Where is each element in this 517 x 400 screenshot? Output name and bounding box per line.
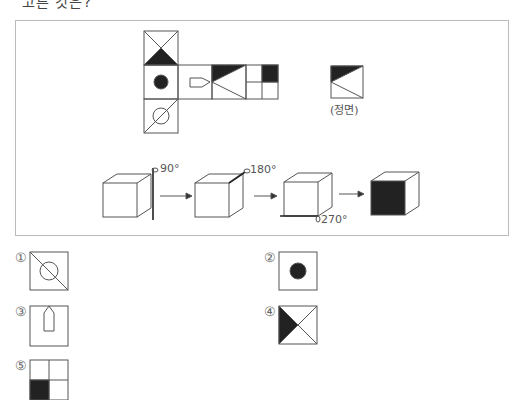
- option-5-figure: [30, 360, 68, 400]
- cube-2: [195, 169, 250, 217]
- option-4-figure: [279, 306, 317, 344]
- cube-4-result: [371, 172, 419, 215]
- net-face-grid: [246, 65, 278, 99]
- option-2-number[interactable]: ②: [264, 250, 276, 265]
- front-view-label: (정면): [330, 101, 359, 117]
- rotation-label-270: 270°: [321, 213, 348, 226]
- cube-1: [103, 168, 158, 220]
- option-4-number[interactable]: ④: [264, 304, 276, 319]
- option-2-figure: [279, 252, 317, 290]
- net-face-dot: [144, 65, 178, 99]
- net-face-triangle: [212, 65, 246, 99]
- rotation-label-180: 180°: [250, 163, 277, 176]
- option-3-number[interactable]: ③: [15, 304, 27, 319]
- rotation-label-90: 90°: [160, 162, 180, 175]
- net-face-top: [144, 31, 178, 65]
- option-5-number[interactable]: ⑤: [15, 358, 27, 373]
- option-1-number[interactable]: ①: [15, 250, 27, 265]
- figure-drawings: [0, 0, 517, 400]
- option-3-figure: [30, 306, 68, 346]
- net-face-circle: [144, 99, 178, 133]
- option-1-figure: [30, 252, 68, 290]
- net-face-arrow: [178, 65, 212, 99]
- front-view: [331, 66, 363, 98]
